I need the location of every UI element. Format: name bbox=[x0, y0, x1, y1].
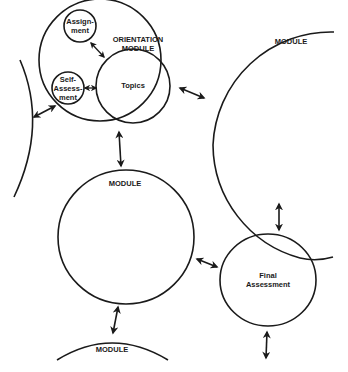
module-right-node: MODULE bbox=[213, 32, 334, 260]
orientation-module-label-2: MODULE bbox=[122, 44, 155, 53]
self-assessment-label-1: Self- bbox=[60, 75, 77, 84]
final-assessment-label-1: Final bbox=[259, 271, 277, 280]
self-assessment-node: Self- Assess- ment bbox=[52, 72, 84, 104]
self-assessment-label-3: ment bbox=[59, 93, 77, 102]
orientation-module-label-1: ORIENTATION bbox=[113, 35, 164, 44]
arrow-assignment-topics bbox=[91, 43, 104, 57]
arrow-final-below bbox=[266, 332, 267, 358]
final-assessment-node: Final Assessment bbox=[220, 234, 316, 326]
course-structure-diagram: ORIENTATION MODULE Assign- ment Self- As… bbox=[0, 0, 348, 372]
assignment-node: Assign- ment bbox=[64, 10, 96, 42]
assignment-label-1: Assign- bbox=[66, 17, 94, 26]
topics-label: Topics bbox=[121, 81, 145, 90]
arrow-orientation-right-module bbox=[180, 88, 204, 98]
module-left-partial-arc bbox=[14, 60, 33, 197]
module-bottom-node: MODULE bbox=[57, 343, 168, 360]
final-assessment-label-2: Assessment bbox=[246, 280, 291, 289]
module-bottom-label: MODULE bbox=[96, 345, 129, 354]
module-middle-node: MODULE bbox=[58, 170, 194, 304]
module-middle-circle bbox=[58, 170, 194, 304]
arrow-orientation-left-module bbox=[34, 106, 55, 117]
arrow-middle-bottom-module bbox=[113, 307, 118, 333]
module-middle-label: MODULE bbox=[109, 179, 142, 188]
orientation-module-node: ORIENTATION MODULE bbox=[39, 0, 163, 121]
assignment-label-2: ment bbox=[71, 26, 89, 35]
module-right-arc bbox=[213, 32, 334, 260]
self-assessment-label-2: Assess- bbox=[54, 84, 83, 93]
module-right-label: MODULE bbox=[275, 37, 308, 46]
arrow-orientation-middle-module bbox=[119, 132, 121, 166]
arrow-middle-module-final bbox=[197, 259, 217, 267]
